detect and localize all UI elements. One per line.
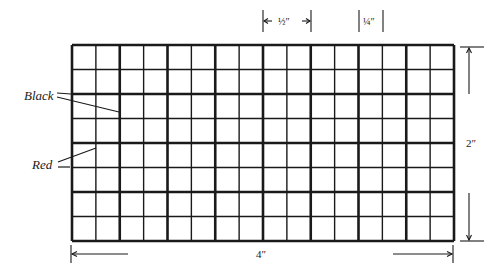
quarter-inch-label: ¼″ — [363, 16, 375, 27]
graph-grid — [72, 45, 454, 241]
red-line-label: Red — [31, 157, 53, 172]
height-label: 2″ — [466, 137, 476, 149]
black-line-label: Black — [24, 88, 54, 103]
width-label: 4″ — [256, 248, 266, 260]
half-inch-label: ½″ — [278, 16, 290, 27]
grid-diagram: Black Red ½″ ¼″ 2″ 4″ — [0, 0, 500, 276]
red-leader-lines — [58, 148, 96, 167]
black-leader-lines — [57, 93, 119, 112]
